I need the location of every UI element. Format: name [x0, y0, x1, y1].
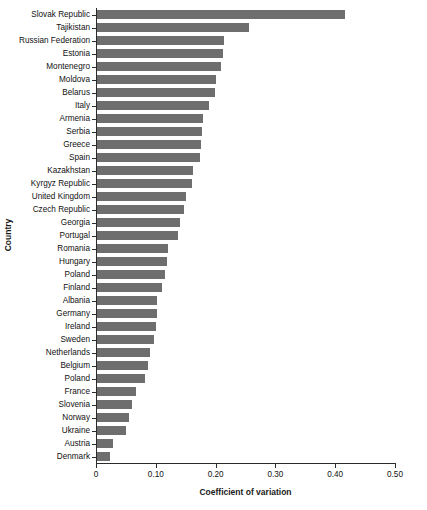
- x-axis-tick-label: 0.40: [327, 470, 343, 479]
- bar: [97, 205, 184, 213]
- category-label: Ireland: [65, 320, 90, 333]
- category-label: Russian Federation: [19, 34, 90, 47]
- bar-row: Kyrgyz Republic: [96, 177, 395, 190]
- y-axis-tick: [92, 132, 96, 133]
- bar: [97, 231, 178, 239]
- bar: [97, 400, 132, 408]
- bar: [97, 283, 162, 291]
- bar: [97, 309, 157, 317]
- y-axis-title-label: Country: [3, 219, 13, 252]
- category-label: Finland: [63, 281, 90, 294]
- bar-row: Czech Republic: [96, 203, 395, 216]
- y-axis-tick: [92, 392, 96, 393]
- y-axis-tick: [92, 41, 96, 42]
- bar-row: Austria: [96, 437, 395, 450]
- bar: [97, 153, 200, 161]
- bar-row: Netherlands: [96, 346, 395, 359]
- category-label: Montenegro: [46, 60, 90, 73]
- y-axis-tick: [92, 119, 96, 120]
- bar-row: Italy: [96, 99, 395, 112]
- plot-area: Slovak RepublicTajikistanRussian Federat…: [96, 8, 395, 463]
- bar-chart: Country Slovak RepublicTajikistanRussian…: [0, 0, 427, 510]
- category-label: Germany: [56, 307, 90, 320]
- y-axis-tick: [92, 67, 96, 68]
- bar: [97, 439, 113, 447]
- bar: [97, 166, 193, 174]
- x-axis-tick-label: 0.50: [387, 470, 403, 479]
- bar: [97, 88, 215, 96]
- x-axis-tick: [395, 463, 396, 468]
- y-axis-tick: [92, 366, 96, 367]
- category-label: Tajikistan: [56, 21, 90, 34]
- category-label: Czech Republic: [33, 203, 90, 216]
- bar: [97, 10, 345, 18]
- bar-row: Serbia: [96, 125, 395, 138]
- category-label: Hungary: [59, 255, 90, 268]
- y-axis-tick: [92, 288, 96, 289]
- bar: [97, 348, 150, 356]
- x-axis-tick: [96, 463, 97, 468]
- category-label: Kyrgyz Republic: [31, 177, 90, 190]
- category-label: France: [65, 385, 90, 398]
- category-label: Portugal: [60, 229, 91, 242]
- bar-row: Montenegro: [96, 60, 395, 73]
- bar: [97, 127, 202, 135]
- bar-row: Ireland: [96, 320, 395, 333]
- bar-row: Estonia: [96, 47, 395, 60]
- y-axis-tick: [92, 262, 96, 263]
- bar: [97, 49, 223, 57]
- bar: [97, 387, 136, 395]
- bar: [97, 179, 192, 187]
- x-axis-spine: [96, 463, 395, 464]
- bar-row: Denmark: [96, 450, 395, 463]
- category-label: Sweden: [60, 333, 90, 346]
- y-axis-tick: [92, 353, 96, 354]
- bar: [97, 413, 129, 421]
- category-label: Netherlands: [46, 346, 90, 359]
- y-axis-tick: [92, 223, 96, 224]
- bar: [97, 75, 216, 83]
- category-label: Poland: [65, 372, 91, 385]
- bar-row: Georgia: [96, 216, 395, 229]
- x-axis-tick-label: 0.10: [148, 470, 164, 479]
- bar: [97, 335, 154, 343]
- y-axis-tick: [92, 28, 96, 29]
- y-axis-tick: [92, 236, 96, 237]
- bar: [97, 62, 221, 70]
- y-axis-tick: [92, 145, 96, 146]
- bar-row: Armenia: [96, 112, 395, 125]
- x-axis-tick-label: 0: [94, 470, 99, 479]
- y-axis-tick: [92, 197, 96, 198]
- bar: [97, 426, 126, 434]
- category-label: Belgium: [60, 359, 90, 372]
- bar-row: Ukraine: [96, 424, 395, 437]
- bar-row: Belarus: [96, 86, 395, 99]
- category-label: Albania: [63, 294, 90, 307]
- x-axis-title: Coefficient of variation: [96, 487, 395, 497]
- bar-row: Moldova: [96, 73, 395, 86]
- bar-row: Spain: [96, 151, 395, 164]
- category-label: Serbia: [66, 125, 90, 138]
- x-axis-tick: [216, 463, 217, 468]
- bar-row: Romania: [96, 242, 395, 255]
- x-axis-tick-label: 0.20: [208, 470, 224, 479]
- bar: [97, 296, 157, 304]
- category-label: Romania: [57, 242, 90, 255]
- y-axis-tick: [92, 93, 96, 94]
- y-axis-tick: [92, 15, 96, 16]
- bar-row: Greece: [96, 138, 395, 151]
- y-axis-tick: [92, 80, 96, 81]
- y-axis-tick: [92, 405, 96, 406]
- y-axis-tick: [92, 158, 96, 159]
- category-label: Moldova: [59, 73, 90, 86]
- y-axis-tick: [92, 54, 96, 55]
- category-label: Armenia: [60, 112, 91, 125]
- bar: [97, 36, 224, 44]
- y-axis-tick: [92, 106, 96, 107]
- y-axis-tick: [92, 457, 96, 458]
- category-label: Kazakhstan: [47, 164, 90, 177]
- category-label: Georgia: [61, 216, 90, 229]
- bar-row: Norway: [96, 411, 395, 424]
- bar-row: France: [96, 385, 395, 398]
- bar-row: Poland: [96, 268, 395, 281]
